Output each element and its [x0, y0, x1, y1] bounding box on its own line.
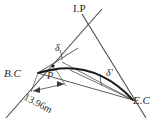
dimension-arrowhead-right: [57, 81, 64, 87]
dimension-arrowhead-left: [33, 87, 40, 93]
label-end-of-curve: E.C: [133, 95, 150, 106]
label-intersection-point: I.P: [73, 3, 86, 14]
label-beginning-of-curve: B.C: [4, 68, 21, 79]
label-point-p: P: [47, 71, 53, 81]
label-delta-prime-angle: δ′: [106, 68, 113, 78]
label-delta-angle: δ: [55, 43, 60, 53]
curve-diagram: I.P B.C E.C P δ δ′ 13.96m: [0, 0, 164, 124]
point-p-marker: [51, 64, 54, 67]
